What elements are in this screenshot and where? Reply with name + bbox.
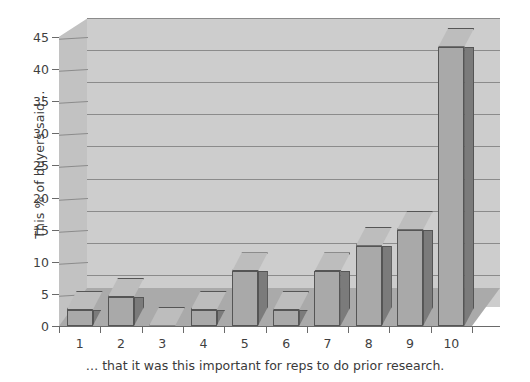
x-tick-mark: [431, 327, 432, 333]
x-tick-label: 9: [390, 336, 430, 351]
bar-side-face: [134, 297, 144, 326]
bar-side-face: [258, 271, 268, 326]
bar-top-face: [438, 28, 474, 47]
y-tick-mark: [52, 69, 59, 70]
x-tick-mark: [142, 327, 143, 333]
y-tick-mark: [52, 294, 59, 295]
x-tick-mark: [348, 327, 349, 333]
bar-side-face: [382, 246, 392, 326]
bar: [108, 297, 134, 326]
bar-side-face: [217, 310, 227, 326]
y-tick-mark: [52, 37, 59, 38]
bar-front-face: [356, 246, 382, 326]
bar: [232, 271, 258, 326]
bar-front-face: [67, 310, 93, 326]
bar-top-face: [191, 291, 227, 310]
bar-top-face: [232, 252, 268, 271]
x-axis-line: [59, 326, 500, 327]
x-tick-mark: [183, 327, 184, 333]
bar-front-face: [314, 271, 340, 326]
x-tick-label: 7: [307, 336, 347, 351]
y-axis-title: This % of buyers said…: [32, 40, 47, 290]
x-tick-mark: [266, 327, 267, 333]
bar: [273, 310, 299, 326]
x-tick-mark: [307, 327, 308, 333]
bar-front-face: [108, 297, 134, 326]
x-tick-mark: [59, 327, 60, 333]
bar-front-face: [438, 47, 464, 326]
y-tick-mark: [52, 326, 59, 327]
y-tick-mark: [52, 198, 59, 199]
x-axis-title: … that it was this important for reps to…: [0, 358, 530, 373]
y-tick-mark: [52, 165, 59, 166]
x-tick-label: 10: [431, 336, 471, 351]
bar-side-face: [464, 47, 474, 326]
bar-front-face: [232, 271, 258, 326]
bar-top-face: [108, 278, 144, 297]
bar-side-face: [299, 310, 309, 326]
bar-top-face: [397, 211, 433, 230]
bar: [191, 310, 217, 326]
x-tick-mark: [100, 327, 101, 333]
x-tick-label: 3: [142, 336, 182, 351]
bar-top-face: [273, 291, 309, 310]
bar: [67, 310, 93, 326]
x-tick-label: 4: [184, 336, 224, 351]
x-tick-mark: [389, 327, 390, 333]
y-tick-mark: [52, 101, 59, 102]
bar: [397, 230, 423, 326]
bar: [438, 47, 464, 326]
x-tick-label: 1: [60, 336, 100, 351]
bar: [356, 246, 382, 326]
y-tick-mark: [52, 133, 59, 134]
bar-side-face: [423, 230, 433, 326]
bar-side-face: [340, 271, 350, 326]
bar-front-face: [273, 310, 299, 326]
y-tick-label: 0: [9, 319, 49, 334]
x-tick-label: 6: [266, 336, 306, 351]
bar-top-face: [314, 252, 350, 271]
bar-side-face: [93, 310, 103, 326]
bar-top-face: [67, 291, 103, 310]
x-tick-label: 8: [349, 336, 389, 351]
y-tick-mark: [52, 262, 59, 263]
bar: [314, 271, 340, 326]
x-tick-label: 2: [101, 336, 141, 351]
y-tick-mark: [52, 230, 59, 231]
x-tick-mark: [472, 327, 473, 333]
bar-chart: This % of buyers said… 05101520253035404…: [0, 0, 530, 382]
x-tick-label: 5: [225, 336, 265, 351]
bar-front-face: [191, 310, 217, 326]
x-tick-mark: [224, 327, 225, 333]
bar-top-face: [149, 307, 185, 326]
bar-series: [59, 18, 500, 326]
bar-front-face: [397, 230, 423, 326]
plot-area: [59, 18, 500, 326]
bar-top-face: [356, 227, 392, 246]
